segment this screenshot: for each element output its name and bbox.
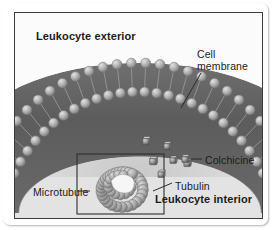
label-colchicine: Colchicine (205, 154, 254, 166)
label-cell-membrane: Cell membrane (197, 48, 248, 72)
label-microtubule: Microtubule (33, 186, 88, 198)
diagram-frame: Leukocyte exterior Leukocyte interior Ce… (14, 12, 263, 219)
label-tubulin: Tubulin (175, 180, 210, 192)
figure-card: Leukocyte exterior Leukocyte interior Ce… (3, 3, 268, 225)
label-leukocyte-exterior: Leukocyte exterior (36, 30, 136, 42)
label-cell-membrane-line2: membrane (197, 60, 248, 72)
label-leukocyte-interior: Leukocyte interior (155, 193, 252, 205)
label-cell-membrane-line1: Cell (197, 48, 216, 60)
